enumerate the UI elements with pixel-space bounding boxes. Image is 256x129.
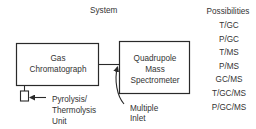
system-heading: System <box>90 6 117 16</box>
multiple-inlet-label-line2: Inlet <box>130 114 158 124</box>
possibility-item: T/GC <box>200 19 256 33</box>
pyrolysis-unit-label-line1: Pyrolysis/ <box>52 94 96 105</box>
multiple-inlet-label: Multiple Inlet <box>130 104 158 124</box>
gas-chromatograph-label: Gas Chromatograph <box>17 53 99 75</box>
possibility-item: P/GC <box>200 33 256 47</box>
possibility-item: GC/MS <box>200 73 256 87</box>
possibilities-heading: Possibilities <box>200 7 256 17</box>
instrument-system-diagram: System Possibilities Gas Chromatograph Q… <box>0 0 256 129</box>
possibility-item: T/GC/MS <box>200 87 256 101</box>
mass-spectrometer-label-line3: Spectrometer <box>120 75 190 86</box>
mass-spectrometer-label: Quadrupole Mass Spectrometer <box>120 53 190 86</box>
pyrolysis-unit-box <box>21 91 29 101</box>
possibility-item: T/MS <box>200 46 256 60</box>
possibility-item: P/GC/MS <box>200 101 256 115</box>
pyrolysis-unit-label-line3: Unit <box>52 116 96 127</box>
gas-chromatograph-label-line1: Gas <box>17 53 99 64</box>
mass-spectrometer-label-line2: Mass <box>120 64 190 75</box>
mass-spectrometer-label-line1: Quadrupole <box>120 53 190 64</box>
possibilities-list: T/GC P/GC T/MS P/MS GC/MS T/GC/MS P/GC/M… <box>200 19 256 114</box>
multiple-inlet-label-line1: Multiple <box>130 104 158 114</box>
pyrolysis-unit-label: Pyrolysis/ Thermolysis Unit <box>52 94 96 127</box>
pyrolysis-unit-label-line2: Thermolysis <box>52 105 96 116</box>
gas-chromatograph-label-line2: Chromatograph <box>17 64 99 75</box>
possibility-item: P/MS <box>200 60 256 74</box>
